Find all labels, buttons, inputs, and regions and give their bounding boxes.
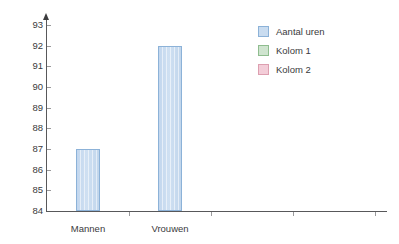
y-axis-tick xyxy=(47,108,51,109)
y-axis-line xyxy=(46,18,47,212)
y-axis-tick-label: 84 xyxy=(5,206,43,216)
y-axis-tick-label: 85 xyxy=(5,185,43,195)
y-axis-tick xyxy=(47,149,51,150)
legend-swatch-icon xyxy=(258,45,269,56)
bar xyxy=(76,149,100,211)
legend-item-label: Kolom 2 xyxy=(276,65,311,75)
x-axis-category-label: Vrouwen xyxy=(151,224,188,234)
x-axis-tick xyxy=(293,212,294,216)
y-axis-tick-label: 87 xyxy=(5,144,43,154)
legend-item[interactable]: Aantal uren xyxy=(258,22,388,41)
y-axis-tick-label: 93 xyxy=(5,20,43,30)
y-axis-tick-label: 92 xyxy=(5,41,43,51)
y-axis-tick xyxy=(47,128,51,129)
y-axis-tick xyxy=(47,87,51,88)
y-axis-tick xyxy=(47,66,51,67)
legend-item-label: Kolom 1 xyxy=(276,46,311,56)
legend-swatch-icon xyxy=(258,64,269,75)
legend-swatch-icon xyxy=(258,26,269,37)
y-axis-arrow-icon xyxy=(43,13,49,20)
x-axis-tick xyxy=(211,212,212,216)
x-axis-category-label: Mannen xyxy=(71,224,105,234)
y-axis-tick xyxy=(47,190,51,191)
legend-item[interactable]: Kolom 2 xyxy=(258,60,388,79)
y-axis-tick xyxy=(47,25,51,26)
x-axis-tick xyxy=(375,212,376,216)
y-axis-tick-label: 88 xyxy=(5,123,43,133)
x-axis-line xyxy=(47,211,387,212)
y-axis-labels: 93929190898887868584 xyxy=(0,0,43,244)
bar-chart: 93929190898887868584 MannenVrouwen Aanta… xyxy=(0,0,399,244)
y-axis-tick-label: 86 xyxy=(5,165,43,175)
y-axis-tick-label: 91 xyxy=(5,61,43,71)
y-axis-tick xyxy=(47,170,51,171)
chart-legend: Aantal urenKolom 1Kolom 2 xyxy=(258,22,388,79)
bar xyxy=(158,46,182,211)
y-axis-tick xyxy=(47,46,51,47)
legend-item-label: Aantal uren xyxy=(276,27,325,37)
y-axis-tick-label: 89 xyxy=(5,103,43,113)
y-axis-tick-label: 90 xyxy=(5,82,43,92)
legend-item[interactable]: Kolom 1 xyxy=(258,41,388,60)
x-axis-tick xyxy=(129,212,130,216)
